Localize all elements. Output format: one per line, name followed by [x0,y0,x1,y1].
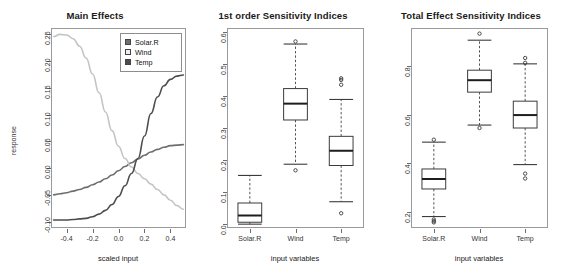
legend-label-solar-r: Solar.R [135,38,159,47]
legend-swatch-icon-temp [125,59,131,65]
x-tick-label: Temp [517,235,534,242]
x-tick-mark [170,229,171,233]
y-tick-label: 0.2 [404,213,411,223]
y-tick-label: 0.25 [44,32,51,46]
legend-item-temp: Temp [125,58,176,68]
panel-first-order: 1st order Sensitivity Indices 0.00.10.20… [190,0,376,277]
boxplot-wind [284,40,308,172]
x-tick-mark [144,229,145,233]
y-tick-label: 0.0 [220,225,227,235]
boxplot-temp [513,56,537,180]
boxplot-solar-r [422,138,446,224]
legend-main-effects: Solar.R Wind Temp [120,33,182,72]
x-tick-label: 0.4 [166,235,176,242]
x-tick-label: Solar.R [238,235,261,242]
x-tick-label: Temp [333,235,350,242]
y-tick-label: -0.05 [44,190,51,206]
x-tick-mark [434,229,435,233]
y-tick-label: 0.8 [404,67,411,77]
y-tick-label: 0.2 [220,161,227,171]
axis-label-input-variables-first: input variables [271,254,319,263]
legend-swatch-icon-wind [125,49,131,55]
y-tick-label: 0.6 [404,116,411,126]
y-tick-label: 0.5 [220,65,227,75]
y-tick-label: -0.10 [44,217,51,233]
y-tick-label: 0.05 [44,139,51,153]
y-tick-label: 0.00 [44,165,51,179]
panel-main-effects: Main Effects response Solar.R Wind Temp … [0,0,190,277]
axis-label-scaled-input: scaled input [98,254,138,263]
y-tick-label: 0.15 [44,85,51,99]
boxplot-temp [329,77,353,215]
x-tick-label: Wind [288,235,304,242]
y-tick-label: 0.1 [220,193,227,203]
x-tick-label: Solar.R [422,235,445,242]
x-tick-label: -0.2 [87,235,99,242]
x-tick-mark [296,229,297,233]
legend-swatch-icon-solar-r [125,39,131,45]
legend-item-wind: Wind [125,48,176,58]
x-tick-label: 0.0 [114,235,124,242]
y-tick-label: 0.10 [44,112,51,126]
y-tick-label: 0.3 [220,129,227,139]
y-tick-label: 0.4 [220,97,227,107]
line-series-solar-r [54,145,184,195]
x-tick-mark [119,229,120,233]
legend-label-wind: Wind [135,48,151,57]
boxplot-solar-r [238,175,262,224]
y-tick-label: 0.20 [44,59,51,73]
x-tick-mark [93,229,94,233]
x-tick-mark [525,229,526,233]
x-tick-label: Wind [472,235,488,242]
y-tick-label: 0.4 [404,165,411,175]
x-tick-label: -0.4 [61,235,73,242]
legend-label-temp: Temp [135,58,153,67]
boxplot-wind [468,32,492,130]
x-tick-label: 0.2 [140,235,150,242]
x-tick-mark [480,229,481,233]
panel-total-effect: Total Effect Sensitivity Indices 0.20.40… [376,0,566,277]
axis-label-input-variables-total: input variables [455,254,503,263]
legend-item-solar-r: Solar.R [125,38,176,48]
y-tick-label: 0.6 [220,33,227,43]
x-tick-mark [250,229,251,233]
x-tick-mark [67,229,68,233]
x-tick-mark [341,229,342,233]
